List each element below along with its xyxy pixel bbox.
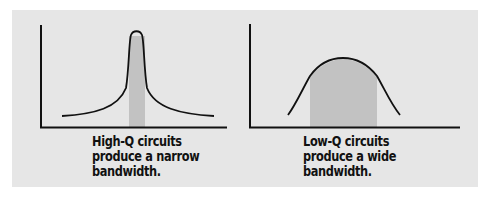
- high-q-caption: High-Q circuits produce a narrow bandwid…: [92, 134, 199, 179]
- caption-line: produce a wide: [303, 149, 396, 164]
- bandwidth-diagram: [0, 0, 486, 198]
- caption-line: bandwidth.: [92, 164, 199, 179]
- caption-line: Low-Q circuits: [303, 134, 396, 149]
- low-q-plot: [249, 24, 460, 128]
- low-q-caption: Low-Q circuits produce a wide bandwidth.: [303, 134, 396, 179]
- high-q-bandwidth-shade: [129, 36, 145, 127]
- low-q-bandwidth-shade: [310, 59, 377, 127]
- caption-line: produce a narrow: [92, 149, 199, 164]
- caption-line: High-Q circuits: [92, 134, 199, 149]
- high-q-plot: [40, 25, 227, 128]
- caption-line: bandwidth.: [303, 164, 396, 179]
